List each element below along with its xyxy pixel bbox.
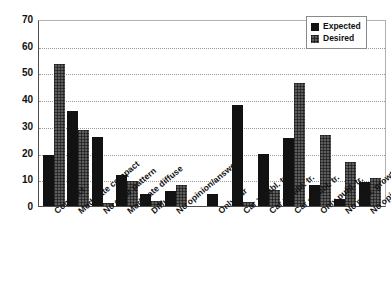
bar-desired	[54, 64, 65, 206]
y-axis-tick-label: 40	[3, 94, 33, 105]
chart-legend: Expected Desired	[306, 16, 367, 49]
legend-label-desired: Desired	[323, 34, 354, 43]
bar-expected	[43, 155, 54, 206]
legend-swatch-desired-icon	[311, 35, 319, 43]
y-axis-tick-label: 30	[3, 121, 33, 132]
legend-swatch-expected-icon	[311, 23, 319, 31]
y-axis-tick-label: 0	[3, 201, 33, 212]
bar-group	[232, 21, 254, 206]
y-axis-tick-label: 10	[3, 174, 33, 185]
y-axis-tick-label: 60	[3, 41, 33, 52]
y-axis-tick-label: 70	[3, 14, 33, 25]
bar-expected	[207, 194, 218, 206]
x-axis-tick-labels: CompactModerate compactNo clear patternM…	[38, 208, 391, 291]
y-axis-tick-label: 50	[3, 67, 33, 78]
legend-item-expected: Expected	[311, 21, 361, 32]
bar-chart: Percentage 010203040506070 CompactModera…	[0, 0, 391, 291]
y-axis-tick-label: 20	[3, 148, 33, 159]
legend-label-expected: Expected	[323, 22, 361, 31]
legend-item-desired: Desired	[311, 33, 361, 44]
bar-group	[43, 21, 65, 206]
bar-group	[67, 21, 89, 206]
